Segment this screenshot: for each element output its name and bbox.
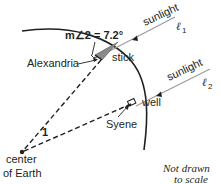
alexandria-label: Alexandria	[27, 57, 80, 69]
angle2-label: m∠2 = 7.2°	[65, 29, 123, 41]
syene-label: Syene	[106, 118, 137, 130]
sunlight1-label: sunlight	[141, 1, 180, 28]
note-line2: to scale	[174, 173, 208, 184]
stick-label: stick	[112, 51, 135, 63]
radius-alexandria	[22, 60, 101, 152]
earth-surface-arc	[22, 29, 147, 150]
sunlight2-label: sunlight	[165, 56, 204, 83]
alexandria-arrowhead	[93, 58, 98, 63]
line2-label: ℓ	[202, 76, 207, 88]
line1-subscript: 1	[182, 26, 187, 35]
angle2-pointer	[92, 42, 95, 55]
ray1-arrowhead	[132, 36, 138, 42]
well-label: well	[141, 96, 161, 108]
angle1-label: 1	[42, 126, 48, 138]
line1-label: ℓ	[176, 20, 181, 32]
center-label-line1: center	[6, 153, 37, 165]
line2-subscript: 2	[208, 82, 213, 91]
alexandria-pointer	[78, 60, 96, 64]
eratosthenes-diagram: m∠2 = 7.2° stick Alexandria Syene well 1…	[0, 0, 220, 184]
center-label-line2: of Earth	[3, 167, 42, 179]
